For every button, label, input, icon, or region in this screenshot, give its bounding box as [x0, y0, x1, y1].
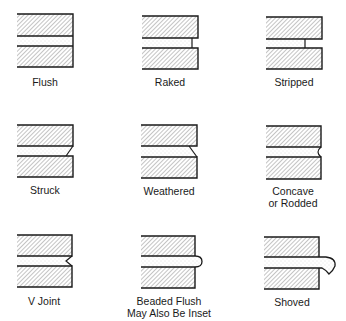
label-weathered: Weathered: [143, 185, 194, 197]
label-struck: Struck: [30, 184, 60, 196]
weathered-joint-drawing: [141, 125, 197, 178]
mortar-joint-diagram: Flush Raked Stripped Struck Weathered Co…: [0, 0, 346, 321]
raked-joint-drawing: [142, 16, 198, 69]
label-flush: Flush: [32, 76, 58, 88]
label-concave: Concave: [272, 185, 313, 197]
beaded-flush-joint-drawing: [141, 236, 202, 288]
joint-drawings: [0, 0, 346, 321]
v-joint-drawing: [17, 235, 72, 287]
stripped-joint-drawing: [266, 17, 322, 69]
label-raked: Raked: [155, 76, 185, 88]
label-concave-line2: or Rodded: [268, 197, 317, 209]
label-v-joint: V Joint: [28, 295, 60, 307]
label-stripped: Stripped: [274, 76, 313, 88]
struck-joint-drawing: [17, 125, 73, 177]
concave-joint-drawing: [266, 126, 321, 179]
flush-joint-drawing: [17, 14, 73, 67]
label-shoved: Shoved: [274, 296, 310, 308]
label-beaded-flush-line2: May Also Be Inset: [127, 307, 211, 319]
label-beaded-flush: Beaded Flush: [137, 295, 202, 307]
shoved-joint-drawing: [264, 237, 335, 289]
